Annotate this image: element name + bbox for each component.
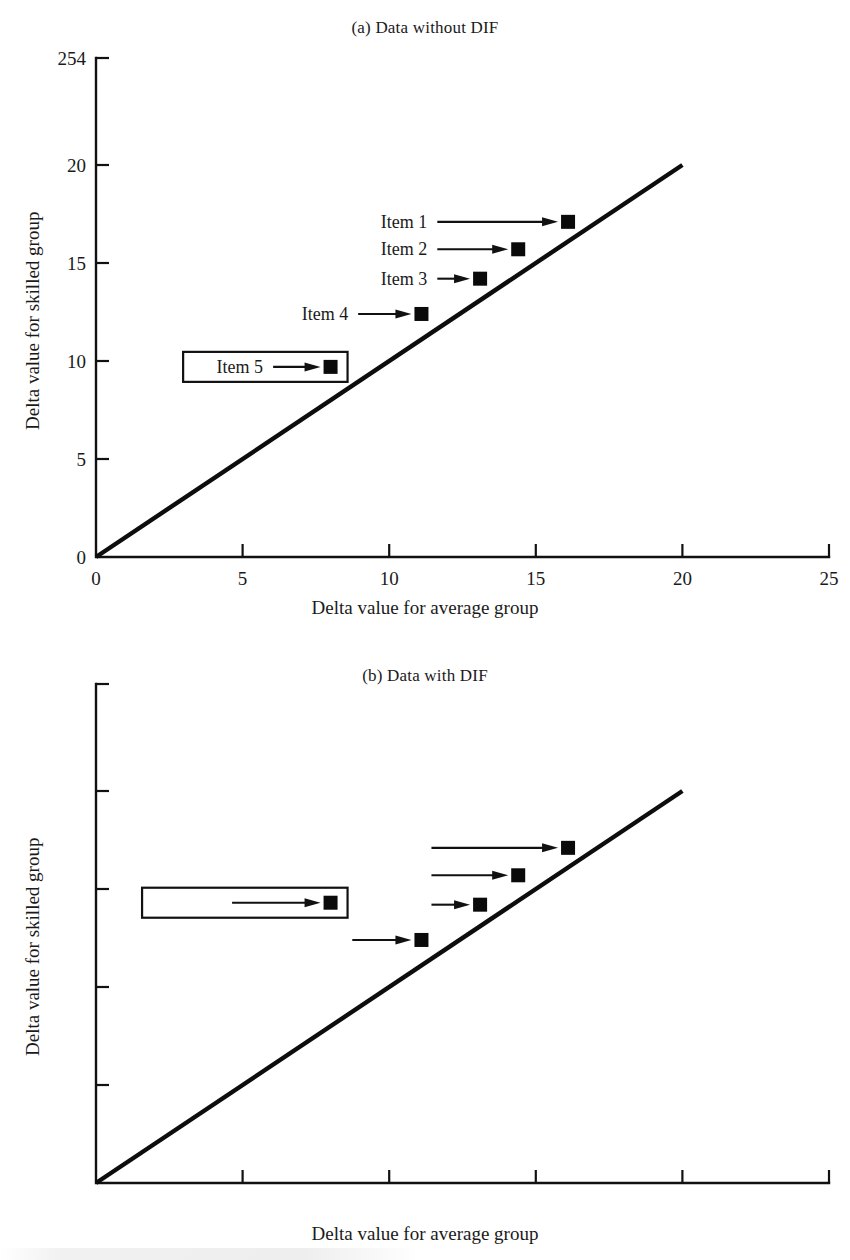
panel-b-x-axis-title: Delta value for average group (0, 1223, 850, 1245)
y-axis-tick-label: 0 (22, 548, 86, 567)
data-point-marker (324, 360, 338, 374)
x-axis-tick-label: 0 (91, 569, 101, 588)
panel-b: (b) Data with DIF Delta value for skille… (0, 626, 850, 1252)
arrowhead-icon (492, 871, 508, 880)
data-point-marker (511, 868, 525, 882)
panel-b-y-axis-title: Delta value for skilled group (22, 838, 44, 1056)
arrowhead-icon (454, 274, 470, 283)
data-point-marker (324, 896, 338, 910)
data-point-marker (561, 841, 575, 855)
arrowhead-icon (454, 900, 470, 909)
data-point-marker (473, 898, 487, 912)
x-axis-tick-label: 10 (380, 569, 399, 588)
y-axis-tick-label: 20 (22, 156, 86, 175)
y-axis-tick-label: 5 (22, 450, 86, 469)
item-label-1: Item 1 (381, 213, 428, 231)
x-axis-tick-label: 15 (526, 569, 545, 588)
arrowhead-icon (542, 217, 558, 226)
arrowhead-icon (305, 362, 321, 371)
arrowhead-icon (305, 898, 321, 907)
panel-a-plot (0, 0, 850, 626)
y-axis-tick-label: 10 (22, 352, 86, 371)
y-axis-tick-label: 15 (22, 254, 86, 273)
arrowhead-icon (395, 309, 411, 318)
arrowhead-icon (542, 843, 558, 852)
arrowhead-icon (492, 245, 508, 254)
x-axis-tick-label: 25 (820, 569, 839, 588)
highlight-callout-box (183, 352, 347, 382)
data-point-marker (473, 272, 487, 286)
identity-line (96, 791, 682, 1183)
panel-b-plot (0, 626, 850, 1252)
item-label-2: Item 2 (381, 240, 428, 258)
panel-a-y-axis-title: Delta value for skilled group (22, 212, 44, 430)
scan-edge-artifact (0, 1248, 850, 1260)
y-axis-tick-label: 254 (22, 49, 86, 68)
item-label-4: Item 4 (302, 305, 349, 323)
x-axis-tick-label: 20 (673, 569, 692, 588)
data-point-marker (414, 307, 428, 321)
item-label-5: Item 5 (217, 358, 264, 376)
data-point-marker (561, 215, 575, 229)
data-point-marker (511, 242, 525, 256)
x-axis-tick-label: 5 (238, 569, 248, 588)
data-point-marker (414, 933, 428, 947)
arrowhead-icon (395, 935, 411, 944)
item-label-3: Item 3 (381, 270, 428, 288)
panel-a-x-axis-title: Delta value for average group (0, 597, 850, 619)
panel-a: (a) Data without DIF Delta value for ski… (0, 0, 850, 626)
